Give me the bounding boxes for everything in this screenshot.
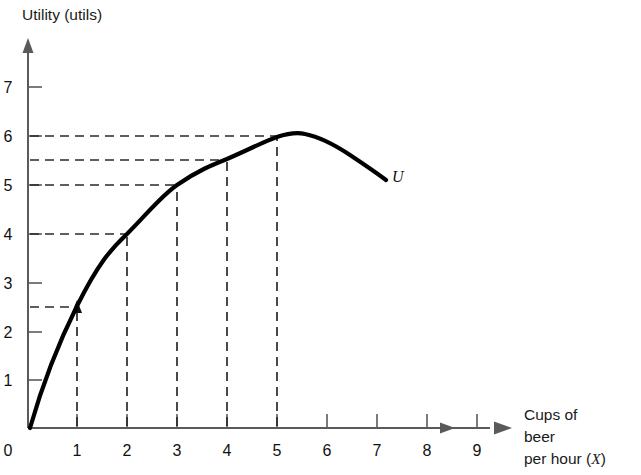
x-axis-title-line2: beer (524, 428, 555, 445)
x-axis-end-arrowhead-icon (494, 422, 512, 435)
x-tick-label-6: 6 (323, 442, 332, 459)
y-tick-label-3: 3 (4, 275, 13, 292)
utility-curve-path (30, 133, 386, 428)
x-axis-title-suffix: ) (601, 450, 606, 467)
y-tick-labels: 7 6 5 4 3 2 1 0 (4, 79, 13, 459)
vertical-guides (72, 136, 277, 426)
x-tick-label-2: 2 (123, 442, 132, 459)
x-tick-label-3: 3 (173, 442, 182, 459)
x-tick-label-8: 8 (423, 442, 432, 459)
y-tick-label-1: 1 (4, 372, 13, 389)
horizontal-guides (30, 136, 277, 307)
y-axis-title: Utility (utils) (22, 6, 102, 23)
x-axis-title-line1: Cups of (524, 406, 578, 423)
x-tick-labels: 1 2 3 4 5 6 7 8 9 (73, 442, 482, 459)
x-tick-label-4: 4 (223, 442, 232, 459)
y-axis (23, 38, 34, 428)
x-axis-title-line3: per hour (X) (524, 450, 606, 467)
x-axis-title: Cups of beer per hour (X) (524, 406, 606, 467)
y-tick-label-5: 5 (4, 177, 13, 194)
y-tick-label-2: 2 (4, 324, 13, 341)
x-axis (28, 423, 455, 434)
y-tick-label-4: 4 (4, 226, 13, 243)
curve-label-u: U (392, 168, 405, 185)
x-tick-label-9: 9 (473, 442, 482, 459)
y-axis-arrowhead-icon (23, 38, 34, 53)
y-tick-label-6: 6 (4, 128, 13, 145)
y-tick-label-7: 7 (4, 79, 13, 96)
x-axis-title-variable: X (590, 450, 601, 467)
x-tick-label-7: 7 (373, 442, 382, 459)
chart-canvas: Utility (utils) U 7 6 5 4 3 2 1 0 1 2 3 … (0, 0, 641, 475)
x-tick-label-1: 1 (73, 442, 82, 459)
x-tick-label-5: 5 (273, 442, 282, 459)
utility-chart: Utility (utils) U 7 6 5 4 3 2 1 0 1 2 3 … (0, 0, 641, 475)
y-tick-label-0: 0 (4, 442, 13, 459)
x-axis-title-prefix: per hour ( (524, 450, 592, 467)
